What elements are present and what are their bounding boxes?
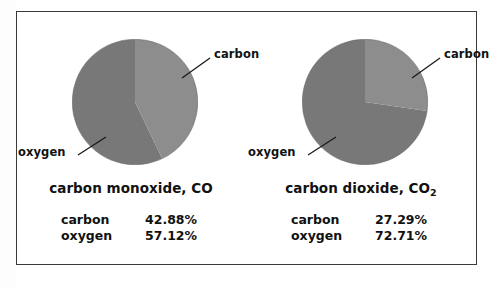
callout-carbon-dioxide-oxygen: oxygen bbox=[248, 145, 296, 159]
legend-label-carbon: carbon bbox=[291, 212, 375, 228]
panel-carbon-dioxide: carbon oxygen carbon dioxide, CO2 carbon… bbox=[246, 11, 476, 265]
legend-row: carbon 42.88% bbox=[61, 212, 197, 228]
legend-row: oxygen 72.71% bbox=[291, 228, 427, 244]
legend-carbon-dioxide: carbon 27.29% oxygen 72.71% bbox=[291, 212, 427, 244]
caption-carbon-dioxide: carbon dioxide, CO2 bbox=[246, 180, 476, 196]
legend-value-oxygen: 72.71% bbox=[375, 228, 427, 244]
legend-label-oxygen: oxygen bbox=[291, 228, 375, 244]
legend-value-oxygen: 57.12% bbox=[145, 228, 197, 244]
legend-label-oxygen: oxygen bbox=[61, 228, 145, 244]
legend-row: oxygen 57.12% bbox=[61, 228, 197, 244]
callout-carbon-monoxide-oxygen: oxygen bbox=[18, 145, 66, 159]
page-edge bbox=[0, 0, 16, 287]
leader-line-carbon-dioxide-oxygen bbox=[306, 135, 340, 159]
legend-value-carbon: 42.88% bbox=[145, 212, 197, 228]
caption-carbon-monoxide: carbon monoxide, CO bbox=[16, 180, 246, 196]
legend-value-carbon: 27.29% bbox=[375, 212, 427, 228]
legend-row: carbon 27.29% bbox=[291, 212, 427, 228]
panel-carbon-monoxide: carbon oxygen carbon monoxide, CO carbon… bbox=[16, 11, 246, 265]
caption-carbon-dioxide-text: carbon dioxide, CO bbox=[285, 180, 430, 196]
callout-carbon-dioxide-carbon: carbon bbox=[444, 47, 489, 61]
caption-carbon-dioxide-subscript: 2 bbox=[430, 187, 437, 198]
leader-line-carbon-monoxide-oxygen bbox=[76, 135, 110, 159]
leader-line-carbon-monoxide-carbon bbox=[180, 55, 216, 81]
leader-line-carbon-dioxide-carbon bbox=[410, 55, 446, 81]
legend-carbon-monoxide: carbon 42.88% oxygen 57.12% bbox=[61, 212, 197, 244]
legend-label-carbon: carbon bbox=[61, 212, 145, 228]
figure-root: carbon oxygen carbon monoxide, CO carbon… bbox=[0, 0, 499, 287]
